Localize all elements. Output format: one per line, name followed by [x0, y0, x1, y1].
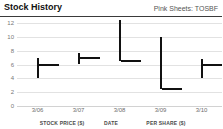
ohlc-high-low-line [37, 58, 39, 79]
widget-header: Stock History Pink Sheets: TOSBF [0, 0, 222, 17]
footer-column-header: STOCK PRICE ($) [40, 120, 85, 127]
ohlc-high-low-line [201, 59, 203, 78]
ohlc-close-tick [162, 88, 182, 90]
exchange-ticker-label: Pink Sheets: TOSBF [154, 0, 222, 14]
ohlc-high-low-line [160, 37, 162, 89]
chart-bars [0, 17, 222, 109]
page-title: Stock History [0, 0, 62, 13]
stock-history-widget: Stock History Pink Sheets: TOSBF 0246810… [0, 0, 222, 129]
ohlc-close-tick [121, 60, 141, 62]
ohlc-high-low-line [78, 53, 80, 64]
ohlc-high-low-line [119, 20, 121, 61]
ohlc-close-tick [203, 64, 223, 66]
ohlc-close-tick [80, 57, 100, 59]
footer-column-header: PER SHARE ($) [146, 120, 185, 127]
x-axis-tick-label: 3/06 [32, 106, 44, 114]
x-axis-tick-label: 3/07 [73, 106, 85, 114]
ohlc-close-tick [39, 64, 59, 66]
x-axis-tick-label: 3/10 [196, 106, 208, 114]
ohlc-chart: 024681012 [0, 17, 222, 109]
x-axis-tick-label: 3/08 [114, 106, 126, 114]
x-axis-tick-label: 3/09 [155, 106, 167, 114]
x-axis-ticks: 3/063/073/083/093/10 [0, 106, 222, 117]
footer-column-header: DATE [104, 120, 118, 127]
footer-column-headers: STOCK PRICE ($)DATEPER SHARE ($) [0, 120, 222, 129]
